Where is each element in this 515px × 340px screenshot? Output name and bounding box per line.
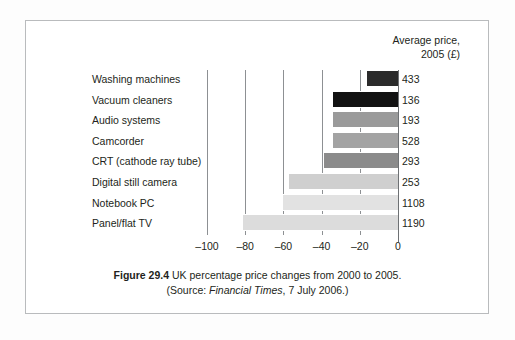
category-label: Audio systems	[92, 114, 222, 126]
category-label: CRT (cathode ray tube)	[92, 155, 222, 167]
x-tick-label: –80	[225, 240, 265, 252]
category-label: Panel/flat TV	[92, 217, 222, 229]
average-price-value: 433	[402, 73, 420, 85]
caption-source-suffix: , 7 July 2006.)	[283, 284, 349, 296]
column-header-line-1: Average price,	[340, 33, 460, 47]
axis-zero-line	[398, 70, 399, 242]
average-price-value: 528	[402, 135, 420, 147]
bar	[243, 214, 398, 231]
average-price-value: 253	[402, 176, 420, 188]
bar	[367, 70, 398, 87]
caption-source-line: (Source: Financial Times, 7 July 2006.)	[40, 283, 475, 298]
x-tick-label: –20	[340, 240, 380, 252]
bar	[289, 173, 398, 190]
average-price-value: 1190	[402, 217, 425, 229]
bar	[333, 132, 398, 149]
x-tick-label: 0	[378, 240, 418, 252]
category-label: Digital still camera	[92, 176, 222, 188]
bar	[333, 111, 398, 128]
gridline-80	[245, 70, 246, 235]
x-tick-label: –100	[187, 240, 227, 252]
category-label: Washing machines	[92, 73, 222, 85]
caption-figure-number: Figure 29.4	[114, 269, 169, 281]
average-price-value: 1108	[402, 197, 425, 209]
caption-source-publication: Financial Times	[209, 284, 282, 296]
category-label: Notebook PC	[92, 197, 222, 209]
category-label: Camcorder	[92, 135, 222, 147]
bar	[333, 91, 398, 108]
caption-source-prefix: (Source:	[167, 284, 210, 296]
x-tick-label: –40	[302, 240, 342, 252]
average-price-value: 136	[402, 94, 420, 106]
category-label: Vacuum cleaners	[92, 94, 222, 106]
figure-page: Average price, 2005 (£) Washing machines…	[0, 0, 515, 340]
caption-body: UK percentage price changes from 2000 to…	[172, 269, 401, 281]
figure-caption: Figure 29.4 UK percentage price changes …	[40, 268, 475, 298]
average-price-column-header: Average price, 2005 (£)	[340, 33, 460, 61]
x-tick-label: –60	[263, 240, 303, 252]
bar	[324, 152, 398, 169]
caption-label: Figure 29.4	[114, 269, 169, 281]
average-price-value: 193	[402, 114, 420, 126]
column-header-line-2: 2005 (£)	[340, 47, 460, 61]
average-price-value: 293	[402, 155, 420, 167]
bar	[283, 194, 398, 211]
